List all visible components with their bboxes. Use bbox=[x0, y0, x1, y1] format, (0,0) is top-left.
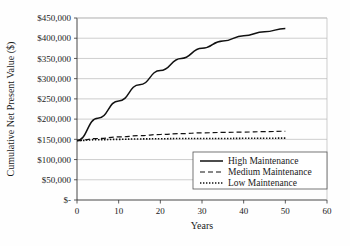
y-tick-label: $150,000 bbox=[37, 135, 71, 145]
x-tick-label: 50 bbox=[281, 206, 291, 216]
y-tick-label: $400,000 bbox=[37, 33, 71, 43]
legend-label: Medium Maintenance bbox=[228, 167, 312, 177]
y-tick-label: $50,000 bbox=[42, 175, 72, 185]
legend: High MaintenanceMedium MaintenanceLow Ma… bbox=[193, 152, 327, 189]
x-tick-label: 60 bbox=[323, 206, 333, 216]
x-tick-labels-group: 0102030405060 bbox=[75, 206, 332, 216]
y-tick-labels-group: $-$50,000$100,000$150,000$200,000$250,00… bbox=[37, 13, 71, 205]
x-tick-label: 20 bbox=[156, 206, 166, 216]
y-tick-label: $- bbox=[64, 195, 72, 205]
axis-titles-group: Cumulative Net Present Value ($)Years bbox=[5, 42, 213, 231]
chart-container: $-$50,000$100,000$150,000$200,000$250,00… bbox=[0, 0, 350, 246]
y-tick-label: $100,000 bbox=[37, 155, 71, 165]
line-chart: $-$50,000$100,000$150,000$200,000$250,00… bbox=[0, 0, 350, 246]
x-axis-title: Years bbox=[191, 220, 213, 231]
x-tick-label: 40 bbox=[239, 206, 249, 216]
legend-label: High Maintenance bbox=[228, 156, 298, 166]
y-tick-label: $300,000 bbox=[37, 74, 71, 84]
y-tick-label: $350,000 bbox=[37, 54, 71, 64]
x-tick-label: 10 bbox=[114, 206, 124, 216]
x-tick-label: 0 bbox=[75, 206, 80, 216]
y-tick-label: $450,000 bbox=[37, 13, 71, 23]
y-tick-label: $200,000 bbox=[37, 114, 71, 124]
x-tick-label: 30 bbox=[198, 206, 208, 216]
legend-label: Low Maintenance bbox=[228, 178, 297, 188]
y-tick-label: $250,000 bbox=[37, 94, 71, 104]
series-group bbox=[77, 29, 285, 141]
series-line-solid bbox=[77, 29, 285, 141]
y-axis-title: Cumulative Net Present Value ($) bbox=[5, 42, 17, 177]
